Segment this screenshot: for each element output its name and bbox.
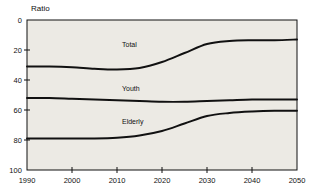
chart-canvas bbox=[0, 0, 317, 194]
y-tick-label: 100 bbox=[0, 166, 22, 175]
x-tick-label: 2040 bbox=[234, 176, 270, 185]
x-tick-label: 2010 bbox=[99, 176, 135, 185]
x-tick-label: 1990 bbox=[9, 176, 45, 185]
x-tick-label: 2000 bbox=[54, 176, 90, 185]
y-tick-label: 80 bbox=[0, 136, 22, 145]
x-tick-label: 2020 bbox=[144, 176, 180, 185]
x-tick-label: 2050 bbox=[279, 176, 315, 185]
series-label-youth: Youth bbox=[122, 85, 140, 92]
y-tick-label: 40 bbox=[0, 76, 22, 85]
y-tick-label: 60 bbox=[0, 106, 22, 115]
plot-background bbox=[27, 20, 297, 170]
x-tick-label: 2030 bbox=[189, 176, 225, 185]
line-chart: Ratio 100806040200 199020002010202020302… bbox=[0, 0, 317, 194]
y-tick-label: 0 bbox=[0, 16, 22, 25]
series-label-elderly: Elderly bbox=[122, 118, 143, 125]
y-tick-label: 20 bbox=[0, 46, 22, 55]
series-label-total: Total bbox=[122, 41, 137, 48]
